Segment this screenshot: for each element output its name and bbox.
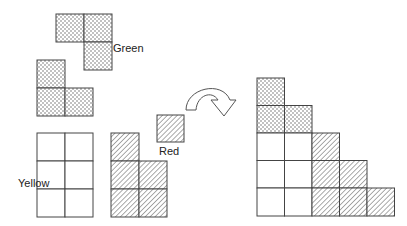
assembled-staircase: [257, 78, 395, 216]
yellow-piece: [37, 133, 93, 217]
green-label: Green: [113, 42, 144, 54]
diagram-canvas: Green Yellow Red: [0, 0, 407, 226]
red-label: Red: [159, 145, 179, 157]
yellow-label: Yellow: [18, 177, 49, 189]
red-piece-single: [157, 115, 184, 142]
rotate-arrow-icon: [186, 89, 236, 116]
